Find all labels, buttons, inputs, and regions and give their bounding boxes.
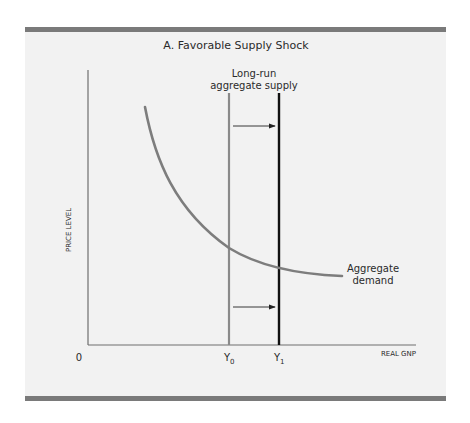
demand-label-line1: Aggregate bbox=[347, 263, 399, 274]
demand-label-line2: demand bbox=[352, 275, 393, 286]
aggregate-demand-curve bbox=[145, 107, 342, 276]
origin-label: 0 bbox=[76, 352, 82, 363]
x-axis-label: REAL GNP bbox=[381, 350, 416, 358]
y-axis-label: PRICE LEVEL bbox=[65, 208, 73, 252]
figure-title: A. Favorable Supply Shock bbox=[163, 39, 309, 52]
y0-tick-label: Y0 bbox=[223, 352, 235, 366]
y1-tick-label: Y1 bbox=[273, 352, 285, 366]
supply-shock-diagram: A. Favorable Supply Shock PRICE LEVEL RE… bbox=[0, 0, 470, 423]
supply-label-line2: aggregate supply bbox=[210, 80, 298, 91]
supply-label-line1: Long-run bbox=[232, 68, 277, 79]
